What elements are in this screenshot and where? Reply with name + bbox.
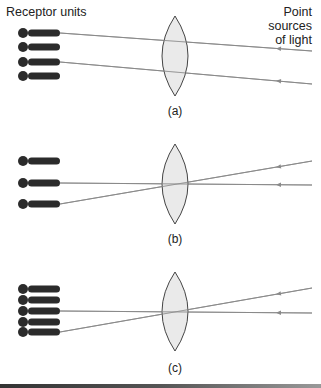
receptor-body [28, 158, 60, 165]
receptor-body [28, 329, 60, 336]
receptor-head [18, 42, 28, 52]
receptor-head [18, 327, 28, 337]
receptor-head [18, 295, 28, 305]
lens-a [162, 16, 188, 96]
receptor-body [28, 30, 60, 37]
receptor-body [28, 59, 60, 66]
receptor-head [18, 57, 28, 67]
receptor-body [28, 308, 60, 315]
receptor-body [28, 297, 60, 304]
receptor-body [28, 201, 60, 208]
caption-c: (c) [155, 361, 195, 375]
receptor-head [18, 317, 28, 327]
caption-b: (b) [155, 232, 195, 246]
bottom-divider [0, 384, 321, 388]
receptor-body [28, 44, 60, 51]
receptor-body [28, 319, 60, 326]
receptor-body [28, 286, 60, 293]
caption-a: (a) [155, 104, 195, 118]
receptor-head [18, 199, 28, 209]
receptor-body [28, 180, 60, 187]
lens-diagram [0, 0, 321, 388]
receptor-body [28, 73, 60, 80]
receptor-head [18, 178, 28, 188]
receptor-head [18, 156, 28, 166]
receptor-head [18, 71, 28, 81]
receptor-head [18, 28, 28, 38]
receptor-head [18, 284, 28, 294]
receptor-head [18, 306, 28, 316]
